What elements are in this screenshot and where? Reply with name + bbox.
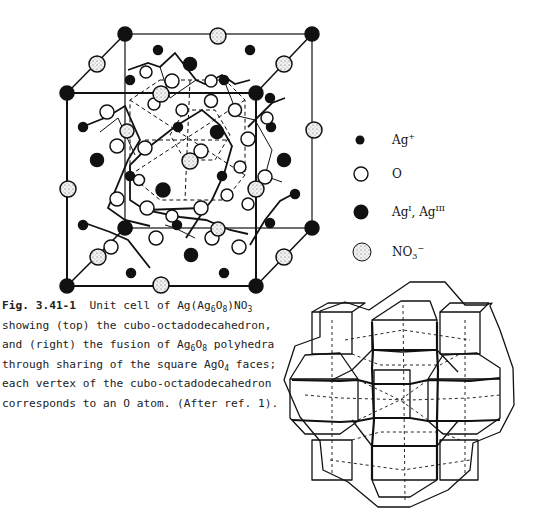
legend-label: O <box>392 167 402 181</box>
caption-line-4: through sharing of the square AgO4 faces… <box>2 355 322 375</box>
small-filled-circle-icon <box>352 130 372 150</box>
stippled-circle-icon <box>352 241 374 263</box>
legend-item-ag-plus: Ag+ <box>352 128 372 152</box>
figure-caption: Fig. 3.41-1 Unit cell of Ag(Ag6O8)NO3 sh… <box>2 296 322 413</box>
legend-item-nitrate: NO3− <box>352 240 374 264</box>
legend-label: Ag+ <box>392 133 415 147</box>
legend-item-ag-i-ag-iii: AgI, AgIII <box>352 200 372 224</box>
legend-label: AgI, AgIII <box>392 205 445 219</box>
caption-line-1: Fig. 3.41-1 Unit cell of Ag(Ag6O8)NO3 <box>2 296 322 316</box>
figure-number: Fig. 3.41-1 <box>2 299 76 312</box>
large-filled-circle-icon <box>352 202 372 222</box>
legend-label: NO3− <box>392 245 424 259</box>
atoms <box>60 27 322 293</box>
caption-line-5: each vertex of the cubo-octadodecahedron <box>2 374 322 394</box>
figure-drawing <box>0 0 539 519</box>
legend-item-oxygen: O <box>352 162 372 186</box>
caption-line-6: corresponds to an O atom. (After ref. 1)… <box>2 394 322 414</box>
open-circle-icon <box>352 164 372 184</box>
caption-line-2: showing (top) the cubo-octadodecahedron, <box>2 316 322 336</box>
caption-line-3: and (right) the fusion of Ag6O8 polyhedr… <box>2 335 322 355</box>
